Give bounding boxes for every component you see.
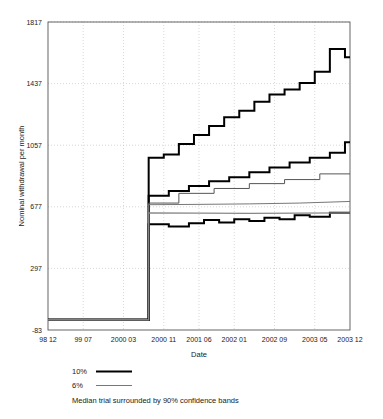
y-tick-label: 1817 [26, 19, 42, 26]
x-tick-label: 2003 05 [302, 336, 327, 343]
x-tick-label: 99 07 [74, 336, 92, 343]
x-tick-label: 2002 09 [262, 336, 287, 343]
x-tick-label: 2000 03 [111, 336, 136, 343]
x-tick-label: 2003 12 [337, 336, 362, 343]
x-tick-label: 2001 06 [186, 336, 211, 343]
y-tick-label: 1437 [26, 80, 42, 87]
y-tick-label: 677 [30, 203, 42, 210]
x-tick-label: 2000 11 [151, 336, 176, 343]
x-axis-tick-labels: 98 1299 072000 032000 112001 062002 0120… [39, 336, 363, 343]
y-axis-title: Nominal withdrawal per month [17, 126, 26, 227]
x-axis-title: Date [191, 350, 207, 359]
legend-label-10pct: 10% [72, 367, 87, 376]
x-tick-label: 2002 01 [222, 336, 247, 343]
y-tick-label: 1057 [26, 142, 42, 149]
x-tick-label: 98 12 [39, 336, 57, 343]
legend-label-6pct: 6% [72, 381, 83, 390]
y-tick-label: 297 [30, 265, 42, 272]
y-tick-label: -83 [32, 327, 42, 334]
legend-caption: Median trial surrounded by 90% confidenc… [72, 396, 239, 405]
chart-figure: -83297677105714371817 98 1299 072000 032… [0, 0, 383, 419]
